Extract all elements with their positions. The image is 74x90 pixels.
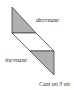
decrease-label: decrease [36, 16, 59, 24]
cast-on-label: Cast on 3 sts [39, 80, 70, 87]
increase-triangle [30, 51, 54, 75]
straight-section [12, 33, 54, 51]
knitting-shape-diagram [0, 0, 74, 90]
decrease-triangle [12, 7, 36, 33]
increase-label: increase [5, 56, 27, 64]
